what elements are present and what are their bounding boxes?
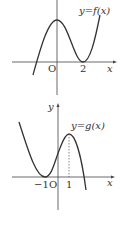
bottom-function-label: y=g(x) bbox=[70, 120, 105, 131]
top-graph: y=f(x) O 2 x bbox=[12, 0, 117, 95]
bottom-y-axis-label: y bbox=[47, 101, 54, 112]
top-x-axis-arrow-icon bbox=[113, 61, 117, 64]
bottom-y-axis-arrow-icon bbox=[57, 103, 60, 107]
bottom-x-axis-label: x bbox=[107, 177, 113, 188]
top-curve-f bbox=[33, 15, 100, 75]
bottom-origin-label: O bbox=[49, 179, 57, 190]
top-x-axis-label: x bbox=[107, 63, 113, 74]
top-origin-label: O bbox=[48, 63, 56, 74]
bottom-graph: y y=g(x) −1 O 1 x bbox=[12, 101, 115, 210]
bottom-x-tick-neg1: −1 bbox=[34, 179, 49, 190]
top-x-tick-2: 2 bbox=[80, 63, 86, 74]
bottom-x-tick-1: 1 bbox=[66, 179, 72, 190]
top-function-label: y=f(x) bbox=[78, 5, 110, 16]
graphs-figure: y=f(x) O 2 x y y=g(x) −1 O 1 x bbox=[0, 0, 130, 225]
